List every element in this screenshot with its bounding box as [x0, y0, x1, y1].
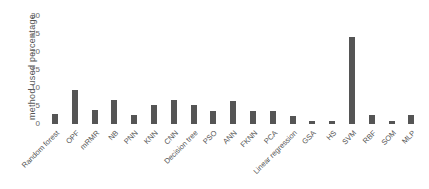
- bar: [329, 121, 335, 124]
- bar: [349, 37, 355, 124]
- bar: [151, 105, 157, 124]
- bar: [92, 110, 98, 124]
- bar: [111, 100, 117, 124]
- x-tick-label: KNN: [143, 129, 160, 146]
- bar-chart: method used percentage 051015202530 Rand…: [0, 0, 429, 189]
- y-tick-label: 10: [26, 84, 40, 92]
- y-tick-label: 20: [26, 48, 40, 56]
- bar: [191, 105, 197, 124]
- y-tick-label: 0: [26, 120, 40, 128]
- x-tick-label: MLP: [401, 129, 418, 146]
- x-tick-label: Random forest: [21, 129, 61, 169]
- x-tick-label: GSA: [301, 129, 318, 146]
- x-tick-label: PSO: [202, 129, 219, 146]
- x-tick-label: HS: [325, 129, 338, 142]
- x-tick-label: RBF: [361, 129, 377, 145]
- bar: [309, 121, 315, 124]
- x-tick-label: SOM: [380, 129, 398, 147]
- bar: [290, 116, 296, 124]
- bar: [210, 111, 216, 124]
- bar: [52, 114, 58, 124]
- bar: [369, 115, 375, 124]
- bar: [389, 121, 395, 124]
- x-tick-label: mRMR: [79, 129, 101, 151]
- x-tick-label: NB: [108, 129, 121, 142]
- x-tick-label: ANN: [222, 129, 239, 146]
- x-tick-label: PNN: [123, 129, 140, 146]
- bar: [171, 100, 177, 124]
- bar: [131, 115, 137, 124]
- y-tick-label: 25: [26, 30, 40, 38]
- x-tick-label: FKNN: [239, 129, 259, 149]
- x-tick-label: SVM: [341, 129, 358, 146]
- bar: [408, 115, 414, 124]
- y-tick-label: 30: [26, 12, 40, 20]
- bar: [72, 90, 78, 124]
- y-tick-label: 15: [26, 66, 40, 74]
- bar: [250, 111, 256, 124]
- y-tick-label: 5: [26, 102, 40, 110]
- bar: [270, 111, 276, 124]
- bar: [230, 101, 236, 124]
